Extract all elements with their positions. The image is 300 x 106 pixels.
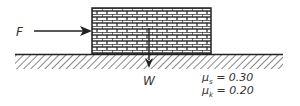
kinetic-value: = 0.20 [217, 84, 254, 97]
force-arrow [34, 26, 92, 36]
mu-symbol: μ [202, 84, 209, 97]
kinetic-friction-coefficient: μk = 0.20 [202, 85, 254, 101]
force-label: F [16, 26, 23, 38]
brick-block [92, 8, 211, 54]
friction-diagram [0, 0, 300, 106]
static-value: = 0.30 [216, 71, 253, 84]
mu-symbol: μ [202, 71, 209, 84]
subscript-k: k [209, 91, 213, 99]
weight-label: W [143, 75, 155, 87]
